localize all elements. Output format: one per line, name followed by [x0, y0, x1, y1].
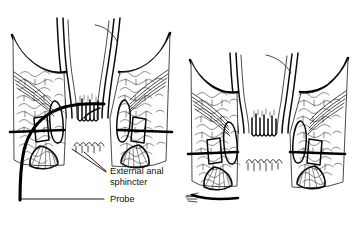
sphincter-label-line1: External anal — [110, 166, 164, 176]
label-group: External anal sphincter Probe — [110, 166, 164, 204]
right-panel-anal-canal — [186, 53, 348, 202]
right-canal-wall-right-inner2 — [277, 56, 287, 133]
anatomy-diagram: External anal sphincter Probe — [0, 0, 359, 225]
sphincter-label-line2: sphincter — [110, 177, 147, 187]
left-fat-region-right — [110, 34, 170, 167]
left-anal-verge-folds — [74, 143, 104, 154]
right-anal-verge-folds — [246, 160, 282, 172]
probe-label: Probe — [110, 194, 135, 204]
right-canal-wall-right-inner — [282, 54, 292, 133]
sphincter-leader-lower — [72, 149, 106, 172]
illustration-canvas: External anal sphincter Probe — [0, 0, 359, 225]
sphincter-leader-upper — [84, 152, 106, 171]
right-lower-contour — [192, 195, 238, 199]
right-upper-sweep — [266, 55, 291, 73]
right-canal-wall-left-inner2 — [241, 55, 249, 133]
right-mucosal-folds — [252, 114, 276, 136]
